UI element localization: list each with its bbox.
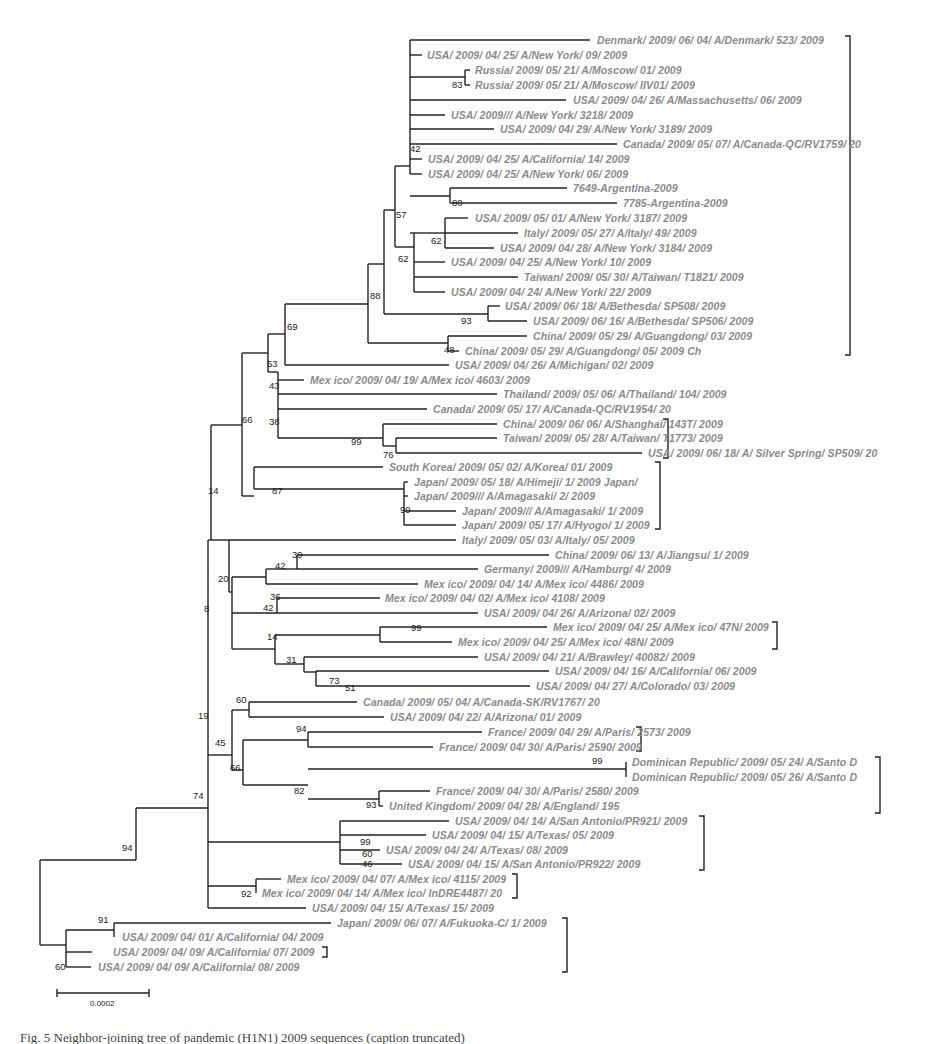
bootstrap-value: 92 <box>241 888 252 899</box>
leaf-label: China/ 2009/ 05/ 29/ A/Guangdong/ 05/ 20… <box>465 345 701 357</box>
leaf-label: USA/ 2009/ 04/ 26/ A/Michigan/ 02/ 2009 <box>455 359 654 371</box>
leaf-label: Canada/ 2009/ 05/ 07/ A/Canada-QC/RV1759… <box>623 138 861 150</box>
bootstrap-value: 94 <box>296 723 307 734</box>
leaf-label: Japan/ 2009/// A/Amagasaki/ 2/ 2009 <box>414 490 595 502</box>
leaf-label: 7785-Argentina-2009 <box>623 197 728 209</box>
leaf-label: Italy/ 2009/ 05/ 03/ A/Italy/ 05/ 2009 <box>462 534 635 546</box>
leaf-label: USA/ 2009/ 04/ 24/ A/Texas/ 08/ 2009 <box>386 844 568 856</box>
leaf-label: Mex ico/ 2009/ 04/ 25/ A/Mex ico/ 47N/ 2… <box>553 621 769 633</box>
leaf-label: China/ 2009/ 06/ 06/ A/Shanghai/ 143T/ 2… <box>503 418 723 430</box>
leaf-label: USA/ 2009/ 04/ 01/ A/California/ 04/ 200… <box>122 931 324 943</box>
leaf-label: USA/ 2009/ 04/ 26/ A/Massachusetts/ 06/ … <box>573 94 802 106</box>
leaf-label: Italy/ 2009/ 05/ 27/ A/Italy/ 49/ 2009 <box>524 227 697 239</box>
leaf-label: USA/ 2009/ 04/ 09/ A/California/ 08/ 200… <box>98 961 300 973</box>
leaf-label: Mex ico/ 2009/ 04/ 02/ A/Mex ico/ 4108/ … <box>385 592 605 604</box>
bootstrap-value: 19 <box>198 710 209 721</box>
bootstrap-value: 76 <box>383 449 394 460</box>
bootstrap-value: 94 <box>122 842 133 853</box>
bootstrap-value: 46 <box>362 858 373 869</box>
leaf-label: Mex ico/ 2009/ 04/ 19/ A/Mex ico/ 4603/ … <box>310 374 530 386</box>
bootstrap-value: 51 <box>345 682 356 693</box>
clade-bracket <box>845 36 850 355</box>
leaf-label: USA/ 2009/ 04/ 21/ A/Brawley/ 40082/ 200… <box>484 651 695 663</box>
leaf-label: Japan/ 2009/ 05/ 18/ A/Himeji/ 1/ 2009 J… <box>414 476 639 488</box>
scale-bar-label: 0.0002 <box>90 999 115 1008</box>
bootstrap-value: 31 <box>286 654 297 665</box>
bootstrap-value: 48 <box>444 344 455 355</box>
clade-bracket <box>699 816 704 870</box>
leaf-label: France/ 2009/ 04/ 30/ A/Paris/ 2580/ 200… <box>436 785 639 797</box>
leaf-label: USA/ 2009/ 04/ 25/ A/New York/ 06/ 2009 <box>428 168 628 180</box>
leaf-label: Dominican Republic/ 2009/ 05/ 26/ A/Sant… <box>632 771 857 783</box>
scale-bar: 0.0002 <box>57 989 149 1008</box>
bootstrap-value: 66 <box>242 414 253 425</box>
leaf-label: United Kingdom/ 2009/ 04/ 28/ A/England/… <box>389 800 619 812</box>
bootstrap-value: 62 <box>431 235 442 246</box>
clade-bracket <box>772 622 777 649</box>
bootstrap-value: 93 <box>461 315 472 326</box>
bootstrap-value: 57 <box>396 209 407 220</box>
bootstrap-value: 8 <box>204 603 209 614</box>
bootstrap-value: 38 <box>269 416 280 427</box>
leaf-label: USA/ 2009/ 06/ 16/ A/Bethesda/ SP506/ 20… <box>533 315 753 327</box>
bootstrap-value: 42 <box>410 143 421 154</box>
leaf-label: Mex ico/ 2009/ 04/ 14/ A/Mex ico/ InDRE4… <box>262 887 502 899</box>
bootstrap-value: 62 <box>398 253 409 264</box>
bootstrap-value: 45 <box>215 737 226 748</box>
leaf-label: Canada/ 2009/ 05/ 17/ A/Canada-QC/RV1954… <box>433 403 671 415</box>
leaf-label: USA/ 2009/ 04/ 25/ A/New York/ 09/ 2009 <box>427 49 627 61</box>
leaf-label: USA/ 2009/ 06/ 18/ A/Bethesda/ SP508/ 20… <box>505 300 725 312</box>
leaf-label: USA/ 2009/ 04/ 14/ A/San Antonio/PR921/ … <box>455 815 687 827</box>
leaf-label: USA/ 2009/ 05/ 01/ A/New York/ 3187/ 200… <box>475 212 687 224</box>
leaf-label: USA/ 2009/ 04/ 24/ A/New York/ 22/ 2009 <box>451 286 651 298</box>
bootstrap-value: 80 <box>452 197 463 208</box>
leaf-label: USA/ 2009/ 06/ 18/ A/ Silver Spring/ SP5… <box>648 447 878 459</box>
leaf-label: USA/ 2009/ 04/ 15/ A/Texas/ 05/ 2009 <box>432 829 614 841</box>
leaf-label: USA/ 2009/ 04/ 22/ A/Arizona/ 01/ 2009 <box>390 711 581 723</box>
bootstrap-value: 82 <box>294 785 305 796</box>
bootstrap-value: 42 <box>263 602 274 613</box>
bootstrap-value: 66 <box>230 762 241 773</box>
bootstrap-value: 74 <box>193 790 204 801</box>
bootstrap-value: 99 <box>411 622 422 633</box>
clade-bracket <box>562 918 567 972</box>
leaf-label: France/ 2009/ 04/ 30/ A/Paris/ 2590/ 200… <box>439 741 642 753</box>
leaf-label: USA/ 2009/ 04/ 29/ A/New York/ 3189/ 200… <box>500 123 712 135</box>
leaf-label: Japan/ 2009/ 06/ 07/ A/Fukuoka-C/ 1/ 200… <box>337 917 547 929</box>
leaf-labels: Denmark/ 2009/ 06/ 04/ A/Denmark/ 523/ 2… <box>98 34 878 973</box>
leaf-label: USA/ 2009/ 04/ 27/ A/Colorado/ 03/ 2009 <box>536 680 735 692</box>
clade-bracket <box>875 757 880 813</box>
leaf-label: USA/ 2009/ 04/ 09/ A/California/ 07/ 200… <box>113 946 315 958</box>
bootstrap-value: 36 <box>270 591 281 602</box>
leaf-label: USA/ 2009/ 04/ 25/ A/New York/ 10/ 2009 <box>451 256 651 268</box>
bootstrap-value: 91 <box>98 914 109 925</box>
leaf-label: Dominican Republic/ 2009/ 05/ 24/ A/Sant… <box>632 756 857 768</box>
clade-bracket <box>512 874 517 898</box>
leaf-label: USA/ 2009/ 04/ 28/ A/New York/ 3184/ 200… <box>500 242 712 254</box>
leaf-label: USA/ 2009/ 04/ 15/ A/San Antonio/PR922/ … <box>408 858 640 870</box>
leaf-label: Japan/ 2009/ 05/ 17/ A/Hyogo/ 1/ 2009 <box>462 519 650 531</box>
leaf-label: Russia/ 2009/ 05/ 21/ A/Moscow/ 01/ 2009 <box>475 64 682 76</box>
bootstrap-value: 87 <box>272 485 283 496</box>
bootstrap-value: 88 <box>370 290 381 301</box>
leaf-label: Denmark/ 2009/ 06/ 04/ A/Denmark/ 523/ 2… <box>597 34 824 46</box>
leaf-label: USA/ 2009/// A/New York/ 3218/ 2009 <box>451 109 633 121</box>
figure-caption: Fig. 5 Neighbor-joining tree of pandemic… <box>20 1030 920 1044</box>
leaf-label: Russia/ 2009/ 05/ 21/ A/Moscow/ IIV01/ 2… <box>475 79 695 91</box>
leaf-label: Mex ico/ 2009/ 04/ 07/ A/Mex ico/ 4115/ … <box>287 873 506 885</box>
leaf-label: Thailand/ 2009/ 05/ 06/ A/Thailand/ 104/… <box>503 388 727 400</box>
bootstrap-value: 20 <box>218 573 229 584</box>
bootstrap-value: 73 <box>329 675 340 686</box>
leaf-label: China/ 2009/ 06/ 13/ A/Jiangsu/ 1/ 2009 <box>555 549 749 561</box>
bootstrap-value: 83 <box>452 79 463 90</box>
leaf-label: Mex ico/ 2009/ 04/ 25/ A/Mex ico/ 48N/ 2… <box>458 636 674 648</box>
leaf-label: South Korea/ 2009/ 05/ 02/ A/Korea/ 01/ … <box>389 461 613 473</box>
bootstrap-value: 43 <box>269 380 280 391</box>
bootstrap-value: 99 <box>360 836 371 847</box>
leaf-label: Canada/ 2009/ 05/ 04/ A/Canada-SK/RV1767… <box>363 696 600 708</box>
leaf-label: USA/ 2009/ 04/ 16/ A/California/ 06/ 200… <box>555 665 757 677</box>
bootstrap-value: 60 <box>236 694 247 705</box>
bootstrap-value: 99 <box>351 436 362 447</box>
leaf-label: Taiwan/ 2009/ 05/ 30/ A/Taiwan/ T1821/ 2… <box>524 271 744 283</box>
